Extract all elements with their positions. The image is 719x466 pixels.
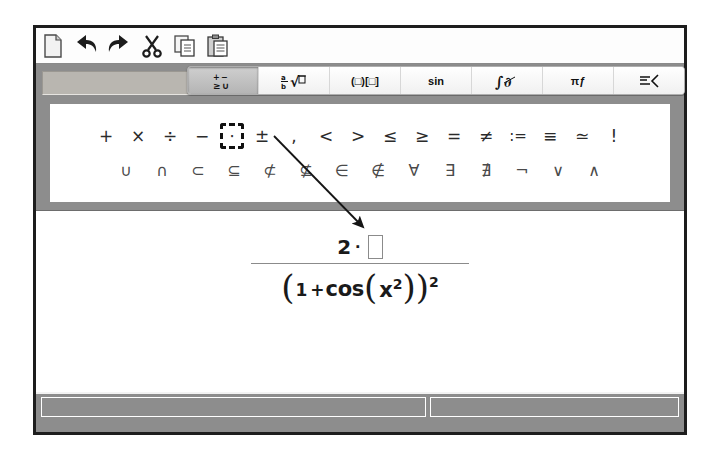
- symbol-definition[interactable]: :=: [506, 123, 530, 149]
- sin-icon: sin: [428, 75, 444, 87]
- svg-text:∫: ∫: [495, 73, 504, 90]
- tab-brackets[interactable]: (□)[□]: [330, 67, 401, 94]
- symbol-minus[interactable]: −: [190, 123, 214, 149]
- outer-open-paren: (: [281, 274, 294, 301]
- symbol-for-all[interactable]: ∀: [402, 158, 426, 184]
- tab-formats-attributes[interactable]: [614, 67, 684, 94]
- symbol-subset-or-equal[interactable]: ⊆: [222, 158, 246, 184]
- svg-text:a: a: [281, 74, 286, 82]
- symbol-not-exists[interactable]: ∄: [474, 158, 498, 184]
- tab-unary-binary-operators[interactable]: + − ≥ ∪: [188, 67, 259, 94]
- symbol-similar[interactable]: ≃: [570, 123, 594, 149]
- symbol-subset[interactable]: ⊂: [186, 158, 210, 184]
- symbol-plus-minus[interactable]: ±: [250, 123, 274, 149]
- symbol-divide[interactable]: ÷: [158, 123, 182, 149]
- cut-icon[interactable]: [135, 29, 168, 62]
- denominator-plus: +: [308, 274, 325, 300]
- inner-close-paren: ): [403, 274, 416, 301]
- fraction-root-icon: a b √: [281, 72, 307, 90]
- plus-minus-union-icon: + − ≥ ∪: [212, 72, 234, 90]
- symbol-not-element-of[interactable]: ∉: [366, 158, 390, 184]
- inner-open-paren: (: [364, 274, 377, 301]
- symbol-plus[interactable]: +: [94, 123, 118, 149]
- svg-text:b: b: [281, 83, 286, 90]
- svg-text:≥: ≥: [213, 81, 221, 90]
- symbol-union[interactable]: ∪: [114, 158, 138, 184]
- symbol-less-than[interactable]: <: [314, 123, 338, 149]
- status-pane-left: [41, 397, 426, 417]
- symbol-times[interactable]: ×: [126, 123, 150, 149]
- numerator-coefficient: 2: [337, 235, 352, 259]
- numerator-dot-operator: ⋅: [355, 238, 362, 256]
- formula-canvas[interactable]: 2 ⋅ ( 1 + cos ( x 2 ) ): [36, 210, 684, 392]
- cosine-function: cos: [326, 274, 364, 301]
- status-bar: [36, 392, 684, 432]
- formula-numerator[interactable]: 2 ⋅: [323, 235, 397, 263]
- symbol-factorial[interactable]: !: [602, 123, 626, 149]
- category-tab-strip: + − ≥ ∪ a b √: [187, 66, 685, 95]
- redo-icon[interactable]: [102, 29, 135, 62]
- category-tab-band: + − ≥ ∪ a b √: [36, 64, 684, 96]
- symbol-and[interactable]: ∧: [582, 158, 606, 184]
- brackets-icon: (□)[□]: [351, 75, 379, 87]
- paste-icon[interactable]: [201, 29, 234, 62]
- integral-icon: ∫ ∂: [495, 72, 519, 90]
- svg-text:∪: ∪: [222, 81, 229, 90]
- symbol-dot-multiplication[interactable]: ⋅: [220, 123, 244, 149]
- symbol-or[interactable]: ∨: [546, 158, 570, 184]
- symbol-identical[interactable]: ≡: [538, 123, 562, 149]
- tab-calculus[interactable]: ∫ ∂: [472, 67, 543, 94]
- empty-placeholder-box[interactable]: [368, 235, 383, 259]
- symbol-palette-container: + × ÷ − ⋅ ± , < > ≤ ≥ = ≠ := ≡ ≃ !: [36, 96, 684, 210]
- greek-pi-icon: πƒ: [571, 75, 586, 87]
- symbol-not-subset-or-equal[interactable]: ⊈: [294, 158, 318, 184]
- undo-icon[interactable]: [69, 29, 102, 62]
- inner-exponent: 2: [393, 274, 403, 292]
- symbol-not-subset[interactable]: ⊄: [258, 158, 282, 184]
- status-pane-right: [430, 397, 679, 417]
- variable-x: x: [377, 274, 393, 302]
- symbol-row-operators: + × ÷ − ⋅ ± , < > ≤ ≥ = ≠ := ≡ ≃ !: [90, 123, 630, 149]
- tab-functions[interactable]: sin: [401, 67, 472, 94]
- copy-icon[interactable]: [168, 29, 201, 62]
- symbol-greater-or-equal[interactable]: ≥: [410, 123, 434, 149]
- symbol-element-of[interactable]: ∈: [330, 158, 354, 184]
- symbol-equal[interactable]: =: [442, 123, 466, 149]
- symbol-exists[interactable]: ∃: [438, 158, 462, 184]
- symbol-intersection[interactable]: ∩: [150, 158, 174, 184]
- symbol-comma[interactable]: ,: [282, 123, 306, 149]
- main-toolbar: [36, 28, 684, 64]
- outer-exponent: 2: [429, 274, 439, 290]
- outer-close-paren: ): [416, 274, 429, 301]
- denominator-one: 1: [294, 274, 308, 300]
- symbol-not[interactable]: ¬: [510, 158, 534, 184]
- symbol-less-or-equal[interactable]: ≤: [378, 123, 402, 149]
- tab-greek-characters[interactable]: πƒ: [543, 67, 614, 94]
- formula-denominator[interactable]: ( 1 + cos ( x 2 ) ) 2: [281, 264, 439, 302]
- tab-fractions-roots[interactable]: a b √: [259, 67, 330, 94]
- fraction[interactable]: 2 ⋅ ( 1 + cos ( x 2 ) ): [251, 235, 469, 302]
- symbol-palette: + × ÷ − ⋅ ± , < > ≤ ≥ = ≠ := ≡ ≃ !: [50, 104, 670, 202]
- format-attributes-icon: [638, 72, 660, 90]
- new-document-icon[interactable]: [36, 29, 69, 62]
- application-window: + − ≥ ∪ a b √: [33, 25, 687, 435]
- formula-expression[interactable]: 2 ⋅ ( 1 + cos ( x 2 ) ): [36, 235, 684, 302]
- formula-editor-app: + − ≥ ∪ a b √: [0, 0, 719, 466]
- symbol-row-set-logic: ∪ ∩ ⊂ ⊆ ⊄ ⊈ ∈ ∉ ∀ ∃ ∄ ¬ ∨ ∧: [108, 158, 612, 184]
- symbol-greater-than[interactable]: >: [346, 123, 370, 149]
- symbol-not-equal[interactable]: ≠: [474, 123, 498, 149]
